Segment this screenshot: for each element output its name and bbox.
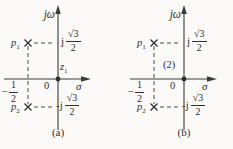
pole1-label: p1 bbox=[11, 38, 20, 51]
panel-caption: (a) bbox=[3, 127, 113, 138]
vertical-axis-label: jω bbox=[162, 9, 181, 21]
pole-zero-plot-a: jω σ 0 p1 p2 z1 j √3 2 -j √3 2 − 1 2 bbox=[0, 0, 110, 149]
zero-multiplicity-annotation: (2) bbox=[163, 60, 175, 73]
horizontal-axis-arrow-icon bbox=[207, 76, 217, 82]
real-axis-value-label: − 1 2 bbox=[128, 80, 144, 104]
positive-imag-value-label: j √3 2 bbox=[61, 29, 81, 53]
horizontal-axis-label: σ bbox=[76, 81, 81, 92]
horizontal-axis-label: σ bbox=[202, 81, 207, 92]
vertical-axis-arrow-icon bbox=[181, 5, 187, 14]
pole1-label: p1 bbox=[137, 38, 146, 51]
negative-imag-value-label: -j √3 2 bbox=[182, 93, 205, 117]
positive-imag-value-label: j √3 2 bbox=[187, 29, 207, 53]
fraction: √3 2 bbox=[65, 93, 80, 117]
zero-marker-origin bbox=[56, 77, 61, 82]
zero-marker-origin bbox=[182, 77, 187, 82]
horizontal-axis-arrow-icon bbox=[81, 76, 91, 82]
fraction: √3 2 bbox=[192, 29, 207, 53]
origin-label: 0 bbox=[170, 81, 175, 92]
panel-caption: (b) bbox=[129, 127, 233, 138]
pole-marker-icon bbox=[151, 104, 158, 111]
zero-annotation: z1 bbox=[60, 62, 68, 75]
pole-marker-icon bbox=[25, 40, 32, 47]
pole-zero-figure: jω σ 0 p1 p2 z1 j √3 2 -j √3 2 − 1 2 bbox=[0, 0, 233, 149]
vertical-axis-label: jω bbox=[36, 9, 55, 21]
origin-label: 0 bbox=[44, 81, 49, 92]
pole-marker-icon bbox=[25, 104, 32, 111]
fraction: √3 2 bbox=[191, 93, 206, 117]
fraction: 1 2 bbox=[135, 80, 144, 104]
pole-zero-plot-b: jω σ 0 p1 p2 (2) j √3 2 -j √3 2 − 1 2 bbox=[126, 0, 233, 149]
negative-imag-value-label: -j √3 2 bbox=[56, 93, 79, 117]
fraction: 1 2 bbox=[9, 80, 18, 104]
fraction: √3 2 bbox=[66, 29, 81, 53]
pole-marker-icon bbox=[151, 40, 158, 47]
vertical-axis-arrow-icon bbox=[55, 5, 61, 14]
real-axis-value-label: − 1 2 bbox=[2, 80, 18, 104]
